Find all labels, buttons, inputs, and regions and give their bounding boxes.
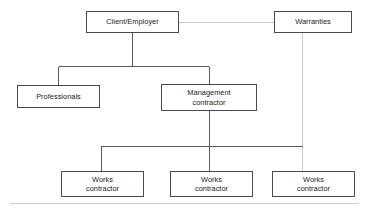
node-works-contractor-1[interactable]: Works contractor bbox=[61, 171, 144, 197]
node-works-contractor-3-label: Works contractor bbox=[295, 175, 332, 193]
node-warranties[interactable]: Warranties bbox=[274, 11, 352, 33]
diagram-canvas: Client/Employer Warranties Professionals… bbox=[0, 0, 369, 211]
node-client-employer[interactable]: Client/Employer bbox=[86, 11, 179, 33]
node-works-contractor-2-label: Works contractor bbox=[193, 175, 230, 193]
node-warranties-label: Warranties bbox=[293, 17, 333, 26]
node-works-contractor-2[interactable]: Works contractor bbox=[170, 171, 253, 197]
node-management-contractor[interactable]: Management contractor bbox=[161, 84, 257, 111]
node-client-employer-label: Client/Employer bbox=[104, 17, 160, 26]
node-professionals-label: Professionals bbox=[34, 92, 83, 101]
node-works-contractor-3[interactable]: Works contractor bbox=[272, 171, 355, 197]
node-professionals[interactable]: Professionals bbox=[17, 85, 100, 108]
node-works-contractor-1-label: Works contractor bbox=[84, 175, 121, 193]
node-management-contractor-label: Management contractor bbox=[185, 88, 232, 106]
